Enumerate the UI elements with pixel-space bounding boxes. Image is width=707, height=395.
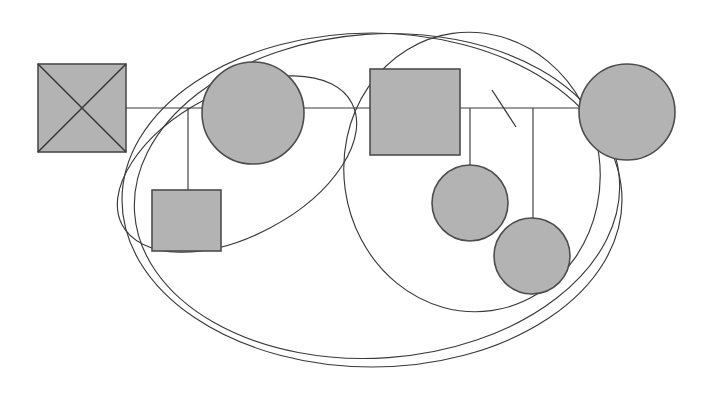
- circle-lower-inner: [432, 165, 508, 241]
- circle-left-upper: [202, 62, 304, 164]
- diagram-canvas: Abstract geometric line diagram: [0, 0, 707, 395]
- circle-right-upper: [579, 64, 675, 160]
- rectangle-center: [370, 69, 460, 155]
- square-lower-left: [152, 190, 221, 251]
- circle-lower-outer: [494, 218, 570, 294]
- shape-group: [38, 62, 675, 294]
- figure-svg: Abstract geometric line diagram: [0, 0, 707, 395]
